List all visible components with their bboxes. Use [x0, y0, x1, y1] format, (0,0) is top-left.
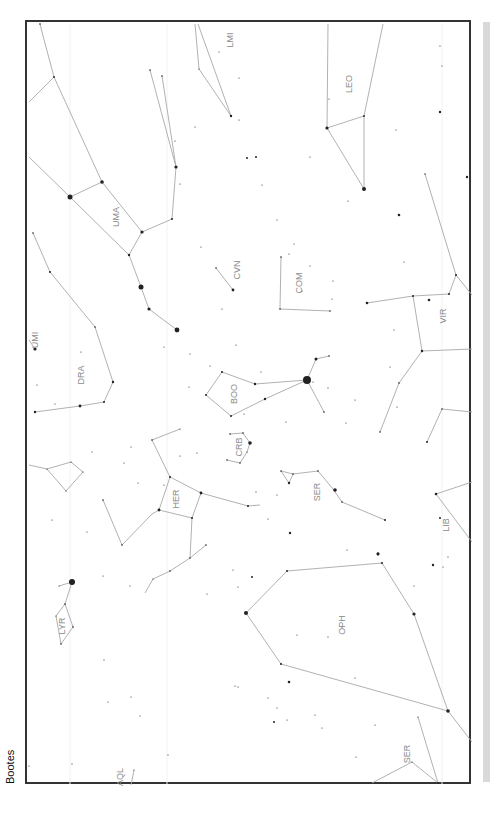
star [328, 98, 329, 99]
constellation-line [33, 233, 113, 412]
star [389, 366, 390, 367]
constellation-label-boo: BOO [229, 384, 239, 404]
star [237, 686, 238, 687]
star [206, 593, 207, 594]
star [424, 173, 425, 174]
chart-title: Bootes [4, 750, 16, 784]
star [103, 659, 104, 660]
star [102, 575, 103, 576]
constellation-line [372, 762, 438, 783]
star [384, 519, 386, 521]
star [79, 405, 82, 408]
star [327, 387, 328, 388]
star [215, 267, 217, 269]
star [65, 490, 66, 491]
star [303, 376, 311, 384]
star [60, 643, 62, 645]
star [112, 381, 114, 383]
star [191, 517, 193, 519]
constellation-line [307, 380, 324, 412]
star [80, 351, 81, 352]
constellation-line [206, 372, 307, 416]
scrollbar[interactable] [483, 22, 490, 782]
constellation-label-oph: OPH [337, 615, 347, 635]
constellation-line [190, 518, 206, 558]
star [276, 219, 277, 220]
star-chart-canvas[interactable]: LMILEOUMACVNCOMUMIDRABOOVIRCRBSERHERLIBL… [27, 22, 473, 786]
star [296, 634, 297, 635]
star [103, 401, 105, 403]
constellation-line [131, 770, 134, 785]
star [169, 476, 171, 478]
star [312, 381, 313, 382]
star [412, 295, 414, 297]
star [413, 585, 414, 586]
constellation-line [307, 356, 329, 380]
star [129, 585, 130, 586]
star [246, 157, 248, 159]
star [264, 398, 266, 400]
star [36, 384, 37, 385]
star [194, 126, 195, 127]
constellation-line [327, 24, 383, 189]
star [280, 470, 282, 472]
star [69, 579, 75, 585]
star [417, 716, 418, 717]
star [205, 544, 207, 546]
star [321, 727, 322, 728]
constellation-line [380, 351, 422, 432]
star [366, 302, 369, 305]
star [169, 570, 171, 572]
constellation-label-ser: SER [312, 482, 322, 501]
star [174, 165, 177, 168]
star [362, 187, 366, 191]
star [331, 298, 332, 299]
star [152, 578, 153, 579]
star [239, 462, 241, 464]
star [280, 256, 282, 258]
star [238, 77, 239, 78]
star [248, 441, 252, 445]
star [379, 431, 381, 433]
constellation-line [70, 182, 102, 197]
constellation-label-lmi: LMI [225, 32, 235, 47]
star [323, 411, 325, 413]
star [196, 452, 197, 453]
star [441, 65, 442, 66]
constellation-line [418, 717, 438, 783]
star [354, 399, 355, 400]
star [398, 214, 401, 217]
star [229, 433, 231, 435]
constellation-line [40, 24, 177, 330]
star [327, 636, 328, 637]
star [230, 415, 232, 417]
star [72, 626, 74, 628]
star [267, 518, 268, 519]
star [163, 346, 164, 347]
star [309, 156, 310, 157]
star [260, 371, 261, 372]
star [91, 451, 92, 452]
star [198, 68, 199, 69]
star [121, 544, 123, 546]
constellation-label-her: HER [171, 489, 181, 509]
star [238, 119, 239, 120]
star-chart-frame[interactable]: LMILEOUMACVNCOMUMIDRABOOVIRCRBSERHERLIBL… [25, 20, 471, 784]
star [28, 765, 29, 766]
star [140, 230, 143, 233]
star [34, 411, 36, 413]
star [403, 261, 404, 262]
star [288, 482, 290, 484]
star [377, 553, 380, 556]
star [442, 566, 443, 567]
star [226, 459, 228, 461]
star [167, 754, 168, 755]
star [54, 403, 55, 404]
star [395, 129, 396, 130]
star [280, 663, 282, 665]
star [341, 501, 343, 503]
star [46, 468, 47, 469]
star [355, 756, 356, 757]
star [286, 719, 287, 720]
star [68, 195, 73, 200]
